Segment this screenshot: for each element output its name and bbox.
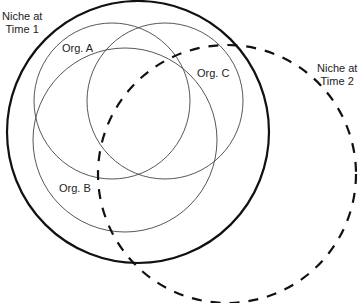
niche-diagram bbox=[0, 0, 361, 303]
org-c-label: Org. C bbox=[197, 67, 229, 80]
org-c-circle bbox=[87, 23, 243, 179]
niche-time2-label: Niche at Time 2 bbox=[317, 62, 357, 88]
niche-time1-circle bbox=[7, 1, 269, 263]
org-b-circle bbox=[33, 48, 217, 232]
org-b-label: Org. B bbox=[59, 182, 91, 195]
niche-time1-label: Niche at Time 1 bbox=[2, 10, 42, 36]
org-a-label: Org. A bbox=[62, 42, 93, 55]
org-a-circle bbox=[34, 23, 190, 179]
